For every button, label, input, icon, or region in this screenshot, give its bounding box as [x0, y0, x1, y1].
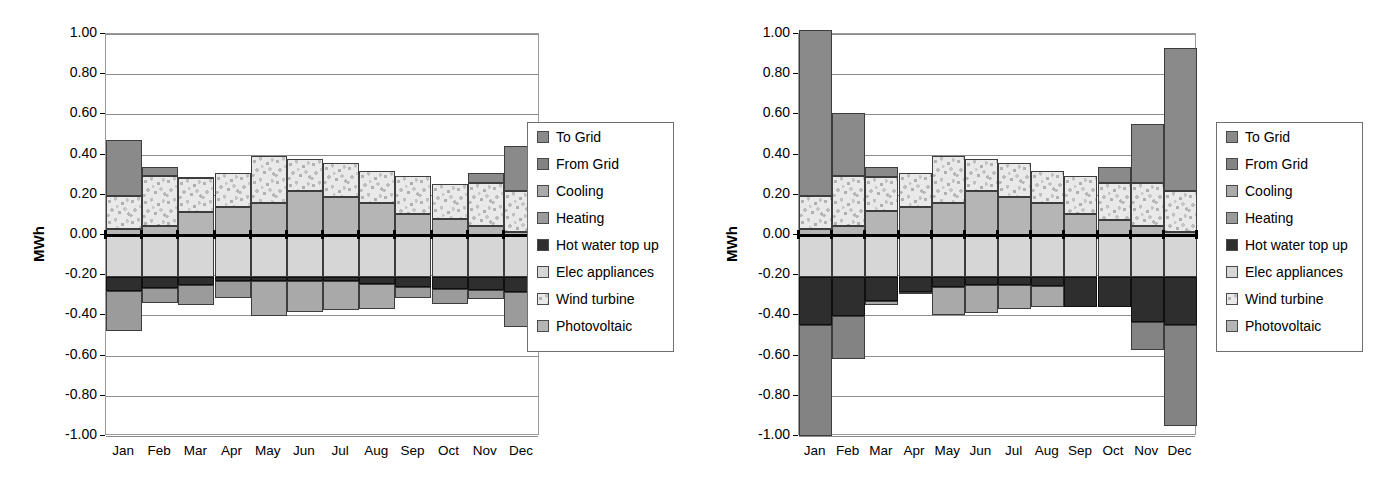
bar-segment-fromgrid[interactable]: [1164, 325, 1197, 426]
bar-segment-elecapp[interactable]: [1131, 235, 1164, 277]
bar-segment-hotwater[interactable]: [1064, 277, 1097, 307]
bar-segment-hotwater[interactable]: [106, 277, 142, 291]
bar-segment-photovoltaic[interactable]: [865, 211, 898, 235]
legend-item[interactable]: Hot water top up: [1217, 231, 1362, 258]
bar-segment-elecapp[interactable]: [323, 235, 359, 277]
bar-segment-heating[interactable]: [178, 285, 214, 305]
bar-segment-hotwater[interactable]: [178, 277, 214, 285]
bar-segment-wind[interactable]: [899, 173, 932, 207]
bar-segment-elecapp[interactable]: [178, 235, 214, 277]
bar-segment-elecapp[interactable]: [215, 235, 251, 277]
legend-item[interactable]: Hot water top up: [528, 231, 673, 258]
bar-segment-cooling[interactable]: [965, 285, 998, 313]
bar-segment-wind[interactable]: [1098, 183, 1131, 220]
bar-segment-wind[interactable]: [359, 171, 395, 203]
bar-segment-hotwater[interactable]: [1131, 277, 1164, 322]
legend-item[interactable]: Cooling: [528, 177, 673, 204]
bar-segment-fromgrid[interactable]: [832, 316, 865, 358]
bar-segment-elecapp[interactable]: [799, 235, 832, 277]
bar-segment-hotwater[interactable]: [1098, 277, 1131, 307]
bar-segment-togrid[interactable]: [468, 173, 504, 183]
bar-segment-hotwater[interactable]: [142, 277, 178, 288]
bar-segment-photovoltaic[interactable]: [932, 203, 965, 235]
bar-segment-heating[interactable]: [142, 288, 178, 303]
bar-segment-wind[interactable]: [1131, 183, 1164, 226]
bar-segment-hotwater[interactable]: [432, 277, 468, 289]
bar-segment-heating[interactable]: [432, 289, 468, 304]
legend-item[interactable]: Wind turbine: [1217, 285, 1362, 312]
bar-segment-cooling[interactable]: [359, 284, 395, 309]
bar-segment-wind[interactable]: [1064, 176, 1097, 214]
bar-segment-cooling[interactable]: [932, 287, 965, 315]
bar-segment-wind[interactable]: [1164, 191, 1197, 232]
bar-segment-hotwater[interactable]: [998, 277, 1031, 285]
bar-segment-togrid[interactable]: [1131, 124, 1164, 182]
bar-segment-togrid[interactable]: [865, 167, 898, 177]
bar-segment-photovoltaic[interactable]: [251, 203, 287, 235]
bar-segment-photovoltaic[interactable]: [323, 197, 359, 235]
bar-segment-elecapp[interactable]: [142, 235, 178, 277]
bar-segment-photovoltaic[interactable]: [215, 207, 251, 235]
bar-segment-togrid[interactable]: [1098, 167, 1131, 183]
bar-segment-wind[interactable]: [323, 163, 359, 197]
bar-segment-cooling[interactable]: [251, 281, 287, 316]
bar-segment-elecapp[interactable]: [965, 235, 998, 277]
bar-segment-hotwater[interactable]: [1164, 277, 1197, 325]
bar-segment-wind[interactable]: [287, 159, 323, 191]
bar-segment-togrid[interactable]: [178, 177, 214, 179]
bar-segment-elecapp[interactable]: [932, 235, 965, 277]
legend-item[interactable]: Elec appliances: [1217, 258, 1362, 285]
legend-item[interactable]: Heating: [528, 204, 673, 231]
bar-segment-hotwater[interactable]: [932, 277, 965, 287]
bar-segment-cooling[interactable]: [287, 281, 323, 312]
bar-segment-photovoltaic[interactable]: [1098, 220, 1131, 235]
bar-segment-elecapp[interactable]: [1098, 235, 1131, 277]
bar-segment-wind[interactable]: [865, 177, 898, 211]
bar-segment-elecapp[interactable]: [395, 235, 431, 277]
bar-segment-hotwater[interactable]: [799, 277, 832, 325]
legend-item[interactable]: From Grid: [1217, 150, 1362, 177]
bar-segment-wind[interactable]: [1031, 171, 1064, 203]
bar-segment-wind[interactable]: [799, 196, 832, 229]
bar-segment-cooling[interactable]: [1031, 286, 1064, 307]
bar-segment-hotwater[interactable]: [1031, 277, 1064, 286]
bar-segment-photovoltaic[interactable]: [965, 191, 998, 235]
bar-segment-hotwater[interactable]: [899, 277, 932, 292]
legend-item[interactable]: Wind turbine: [528, 285, 673, 312]
bar-segment-elecapp[interactable]: [287, 235, 323, 277]
bar-segment-wind[interactable]: [215, 173, 251, 207]
legend-item[interactable]: To Grid: [528, 123, 673, 150]
bar-segment-photovoltaic[interactable]: [287, 191, 323, 235]
bar-segment-cooling[interactable]: [899, 292, 932, 294]
bar-segment-wind[interactable]: [998, 163, 1031, 197]
bar-segment-elecapp[interactable]: [832, 235, 865, 277]
bar-segment-wind[interactable]: [178, 178, 214, 212]
bar-segment-elecapp[interactable]: [359, 235, 395, 277]
bar-segment-heating[interactable]: [395, 287, 431, 298]
bar-segment-cooling[interactable]: [865, 301, 898, 305]
bar-segment-heating[interactable]: [215, 281, 251, 298]
bar-segment-photovoltaic[interactable]: [178, 212, 214, 235]
bar-segment-hotwater[interactable]: [965, 277, 998, 285]
bar-segment-photovoltaic[interactable]: [899, 207, 932, 235]
legend-item[interactable]: Photovoltaic: [1217, 312, 1362, 339]
bar-segment-togrid[interactable]: [799, 30, 832, 196]
legend-item[interactable]: Heating: [1217, 204, 1362, 231]
bar-segment-cooling[interactable]: [323, 281, 359, 310]
bar-segment-elecapp[interactable]: [899, 235, 932, 277]
bar-segment-photovoltaic[interactable]: [359, 203, 395, 235]
bar-segment-cooling[interactable]: [998, 285, 1031, 309]
bar-segment-wind[interactable]: [106, 196, 142, 229]
bar-segment-wind[interactable]: [468, 183, 504, 226]
bar-segment-hotwater[interactable]: [468, 277, 504, 290]
bar-segment-fromgrid[interactable]: [1131, 322, 1164, 349]
bar-segment-hotwater[interactable]: [865, 277, 898, 301]
bar-segment-togrid[interactable]: [106, 140, 142, 196]
bar-segment-heating[interactable]: [106, 291, 142, 331]
bar-segment-heating[interactable]: [468, 290, 504, 299]
bar-segment-elecapp[interactable]: [1064, 235, 1097, 277]
legend-item[interactable]: Photovoltaic: [528, 312, 673, 339]
bar-segment-wind[interactable]: [965, 159, 998, 191]
bar-segment-togrid[interactable]: [142, 167, 178, 176]
bar-segment-wind[interactable]: [832, 176, 865, 226]
